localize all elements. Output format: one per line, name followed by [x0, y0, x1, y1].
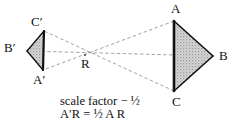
ray-A-R-A-prime — [43, 21, 174, 70]
vertex-label-a-prime: A′ — [33, 73, 45, 86]
ray-C-R-C-prime — [44, 31, 174, 91]
caption-ratio: A′R = ½ A R — [60, 108, 125, 121]
triangle-A-prime-B-prime-C-prime-fill — [27, 31, 44, 70]
center-label-r: R — [81, 57, 90, 70]
dilation-diagram: A B C A′ B′ C′ R scale factor − ½ A′R = … — [0, 0, 239, 126]
vertex-label-c-prime: C′ — [31, 15, 43, 28]
vertex-label-a: A — [171, 2, 180, 15]
vertex-label-b: B — [219, 49, 228, 62]
triangle-ABC-fill — [174, 21, 213, 91]
vertex-label-b-prime: B′ — [4, 41, 16, 54]
segment-C-prime-A-prime — [43, 31, 44, 70]
triangle-A-prime-B-prime-C-prime — [27, 31, 44, 70]
triangle-ABC — [174, 21, 213, 91]
vertex-label-c: C — [172, 95, 181, 108]
